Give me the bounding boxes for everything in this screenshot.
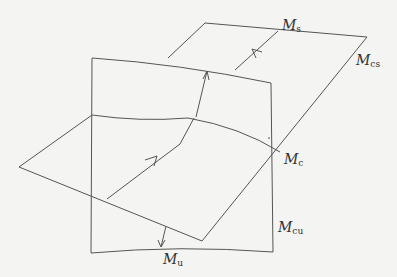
label-mcs: Mcs xyxy=(356,53,380,69)
label-mcu: Mcu xyxy=(278,220,303,236)
label-mu: Mu xyxy=(163,252,183,268)
diagram-lines xyxy=(0,0,397,277)
stable-arrow-icon xyxy=(252,49,262,58)
unstable-manifold-curve xyxy=(161,226,166,247)
label-mc: Mc xyxy=(284,152,303,168)
center-unstable-sheet xyxy=(91,58,273,253)
up-arrow-icon-lower xyxy=(145,156,157,166)
label-ms: Ms xyxy=(282,18,301,34)
manifold-diagram: Ms Mcs Mc Mcu Mu xyxy=(0,0,397,277)
unstable-trajectory-upper xyxy=(196,71,207,117)
center-stable-top-left xyxy=(168,23,205,58)
center-stable-plane xyxy=(19,23,367,241)
